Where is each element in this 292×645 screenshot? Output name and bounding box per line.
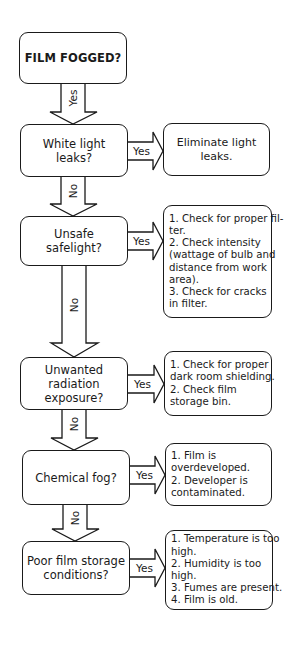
action-box-safelight-checks: 1. Check for proper fil- ter. 2. Check i…	[163, 205, 272, 318]
start-label: FILM FOGGED?	[25, 51, 122, 65]
decision-label: White light leaks?	[25, 137, 123, 165]
decision-box-unsafe-safelight: Unsafe safelight?	[20, 216, 128, 266]
decision-box-poor-film-storage: Poor film storage conditions?	[22, 541, 130, 595]
arrow-label-no-step1: No	[67, 180, 79, 202]
arrow-label-yes: Yes	[136, 562, 153, 574]
action-box-storage-causes: 1. Temperature is too high. 2. Humidity …	[165, 530, 273, 610]
action-box-radiation-checks: 1. Check for proper dark room shielding.…	[164, 351, 272, 416]
arrow-label-yes: Yes	[133, 235, 150, 247]
arrow-label-yes: Yes	[134, 378, 151, 390]
arrow-label-yes-start: Yes	[67, 87, 79, 109]
arrow-label-yes: Yes	[136, 469, 153, 481]
decision-box-chemical-fog: Chemical fog?	[22, 450, 130, 505]
decision-box-white-light-leaks: White light leaks?	[20, 124, 128, 177]
start-box: FILM FOGGED?	[19, 32, 127, 84]
arrow-label-no-step3: No	[68, 413, 80, 435]
decision-label: Poor film storage conditions?	[27, 554, 125, 582]
flowchart-canvas: FILM FOGGED? Yes No No No No White light…	[0, 0, 292, 645]
decision-box-unwanted-radiation: Unwanted radiation exposure?	[20, 357, 128, 410]
action-list: 1. Check for proper dark room shielding.…	[170, 359, 275, 408]
action-list: 1. Film is overdeveloped. 2. Developer i…	[171, 450, 250, 499]
arrow-label-no-step2: No	[68, 294, 80, 316]
decision-label: Unsafe safelight?	[25, 227, 123, 255]
action-box-eliminate-light-leaks: Eliminate light leaks.	[163, 123, 270, 176]
arrow-label-no-step4: No	[69, 507, 81, 529]
action-box-chemical-fog-causes: 1. Film is overdeveloped. 2. Developer i…	[165, 443, 272, 506]
action-text: Eliminate light leaks.	[177, 136, 257, 164]
arrow-label-yes: Yes	[133, 145, 150, 157]
decision-label: Chemical fog?	[35, 471, 117, 485]
action-list: 1. Check for proper fil- ter. 2. Check i…	[169, 213, 284, 311]
action-list: 1. Temperature is too high. 2. Humidity …	[171, 533, 282, 606]
decision-label: Unwanted radiation exposure?	[25, 363, 123, 405]
